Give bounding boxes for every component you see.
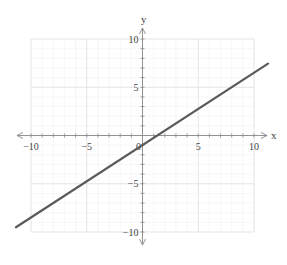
y-tick-label: 10	[129, 34, 139, 45]
y-tick-label: −10	[123, 227, 139, 238]
x-tick-label: 10	[249, 141, 259, 152]
x-axis-label: x	[271, 129, 277, 141]
y-tick-label: −5	[128, 178, 139, 189]
x-tick-label: −10	[23, 141, 39, 152]
y-axis-label: y	[141, 13, 147, 25]
y-tick-label: 5	[134, 82, 139, 93]
x-tick-label: −5	[81, 141, 92, 152]
x-tick-label: 5	[196, 141, 201, 152]
coordinate-plane-chart: −10−50510−10−5510 x y	[0, 0, 287, 265]
